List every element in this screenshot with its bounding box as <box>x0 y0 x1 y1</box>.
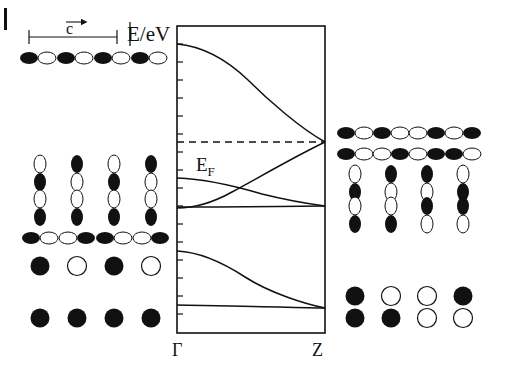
p-orbital-horizontal-icon <box>20 52 56 64</box>
p-orbital-vertical-icon <box>108 190 120 226</box>
p-orbital-vertical-icon <box>71 155 83 191</box>
p-orbital-horizontal-icon <box>445 148 481 160</box>
s-orbital-icon <box>382 287 401 306</box>
k-point-label-z: Z <box>312 340 323 361</box>
p-orbital-horizontal-icon <box>337 148 373 160</box>
orbital-row-left-row-4-p-horizontal-alternating <box>22 232 169 244</box>
energy-axis-label: E/eV <box>127 22 170 47</box>
orbital-row-right-row-4-p-vertical <box>349 197 469 233</box>
s-orbital-icon <box>418 309 437 328</box>
orbital-row-left-row-3-p-vertical-inphase <box>34 190 157 226</box>
k-point-label-gamma: Γ <box>172 340 182 361</box>
p-orbital-horizontal-icon <box>96 232 132 244</box>
orbital-row-left-row-5-s-alternating <box>31 257 161 276</box>
p-orbital-horizontal-icon <box>373 148 409 160</box>
p-orbital-vertical-icon <box>349 165 361 201</box>
p-orbital-horizontal-icon <box>57 52 93 64</box>
orbital-row-right-row-5-s <box>346 287 473 306</box>
s-orbital-icon <box>105 309 124 328</box>
p-orbital-vertical-icon <box>421 197 433 233</box>
orbital-row-right-row-1-p-horizontal <box>337 127 481 139</box>
band-structure-figure <box>0 0 505 380</box>
p-orbital-horizontal-icon <box>131 52 167 64</box>
p-orbital-horizontal-icon <box>22 232 58 244</box>
p-orbital-vertical-icon <box>34 190 46 226</box>
s-orbital-icon <box>68 257 87 276</box>
p-orbital-horizontal-icon <box>445 127 481 139</box>
orbital-row-left-row-top-p-horizontal <box>20 52 167 64</box>
s-orbital-icon <box>31 309 50 328</box>
p-orbital-vertical-icon <box>71 190 83 226</box>
p-orbital-vertical-icon <box>145 190 157 226</box>
p-orbital-horizontal-icon <box>337 127 373 139</box>
s-orbital-icon <box>418 287 437 306</box>
s-orbital-icon <box>142 309 161 328</box>
p-orbital-vertical-icon <box>385 197 397 233</box>
p-orbital-vertical-icon <box>457 165 469 201</box>
fermi-level-subscript: F <box>208 164 215 179</box>
p-orbital-vertical-icon <box>145 155 157 191</box>
p-orbital-horizontal-icon <box>409 148 445 160</box>
p-orbital-vertical-icon <box>34 155 46 191</box>
s-orbital-icon <box>31 257 50 276</box>
s-orbital-icon <box>346 309 365 328</box>
fermi-level-symbol: E <box>196 154 208 175</box>
s-orbital-icon <box>142 257 161 276</box>
p-orbital-vertical-icon <box>457 197 469 233</box>
orbital-row-right-row-6-s <box>346 309 473 328</box>
s-orbital-icon <box>454 309 473 328</box>
s-orbital-icon <box>68 309 87 328</box>
orbital-row-right-row-2-p-horizontal <box>337 148 481 160</box>
p-orbital-horizontal-icon <box>133 232 169 244</box>
energy-axis-ticks <box>177 44 183 314</box>
orbital-row-left-row-6-s-inphase <box>31 309 161 328</box>
s-orbital-icon <box>346 287 365 306</box>
orbital-row-right-row-3-p-vertical <box>349 165 469 201</box>
orbital-row-left-row-2-p-vertical-alternating <box>34 155 157 191</box>
p-orbital-vertical-icon <box>108 155 120 191</box>
s-orbital-icon <box>382 309 401 328</box>
p-orbital-horizontal-icon <box>59 232 95 244</box>
s-orbital-icon <box>105 257 124 276</box>
p-orbital-horizontal-icon <box>409 127 445 139</box>
band-curve-3 <box>177 206 325 207</box>
p-orbital-horizontal-icon <box>94 52 130 64</box>
p-orbital-vertical-icon <box>349 197 361 233</box>
band-curve-6 <box>177 305 325 308</box>
fermi-level-label: EF <box>196 154 215 180</box>
p-orbital-vertical-icon <box>385 165 397 201</box>
p-orbital-horizontal-icon <box>373 127 409 139</box>
band-curve-5 <box>177 251 325 308</box>
band-curve-1 <box>177 44 325 142</box>
lattice-vector-bracket <box>29 22 130 46</box>
p-orbital-vertical-icon <box>421 165 433 201</box>
s-orbital-icon <box>454 287 473 306</box>
lattice-vector-label: c <box>66 20 73 38</box>
